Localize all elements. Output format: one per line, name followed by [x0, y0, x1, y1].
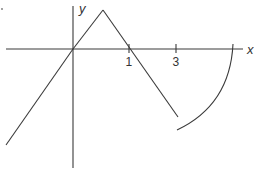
falling-segment	[103, 10, 178, 117]
y-axis-label: y	[78, 1, 87, 16]
rising-segment	[73, 10, 103, 49]
tick-label-1: 1	[126, 55, 133, 69]
left-ray	[6, 49, 73, 145]
x-axis-label: x	[246, 42, 254, 57]
stray-mark	[1, 8, 3, 10]
piecewise-function-graph: x y 1 3	[0, 0, 254, 169]
arc	[177, 44, 233, 130]
tick-label-3: 3	[173, 55, 180, 69]
